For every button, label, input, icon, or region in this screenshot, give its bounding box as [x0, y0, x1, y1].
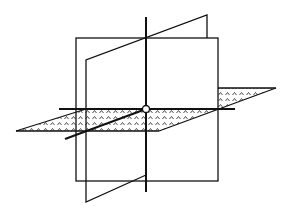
planes-diagram	[0, 0, 294, 210]
origin-point	[143, 106, 150, 113]
